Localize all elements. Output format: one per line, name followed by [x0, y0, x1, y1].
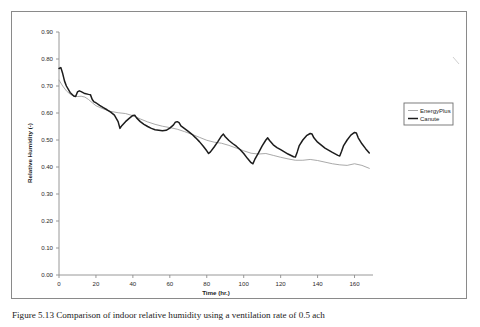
x-tick-label: 20: [93, 280, 100, 287]
relative-humidity-line-chart: 0.000.100.200.300.400.500.600.700.800.90…: [12, 12, 468, 300]
x-tick-label: 80: [203, 280, 210, 287]
y-tick-label: 0.10: [41, 244, 53, 251]
x-tick-label: 0: [57, 280, 61, 287]
y-axis-ticks: 0.000.100.200.300.400.500.600.700.800.90: [41, 28, 59, 278]
figure-frame: 0.000.100.200.300.400.500.600.700.800.90…: [11, 11, 467, 299]
plot-area-background: [59, 32, 373, 275]
x-tick-label: 40: [129, 280, 136, 287]
x-tick-label: 100: [239, 280, 250, 287]
scan-artifact-mark: [453, 57, 459, 64]
x-tick-label: 160: [349, 280, 360, 287]
chart-legend: EnergyPlus Canute: [404, 103, 453, 125]
x-tick-label: 120: [276, 280, 287, 287]
y-tick-label: 0.30: [41, 190, 53, 197]
y-tick-label: 0.50: [41, 136, 53, 143]
x-tick-label: 60: [166, 280, 173, 287]
figure-caption: Figure 5.13 Comparison of indoor relativ…: [12, 309, 468, 321]
legend-label-canute: Canute: [420, 116, 440, 122]
y-tick-label: 0.80: [41, 55, 53, 62]
x-tick-label: 140: [313, 280, 324, 287]
y-tick-label: 0.70: [41, 82, 53, 89]
y-tick-label: 0.40: [41, 163, 53, 170]
y-tick-label: 0.60: [41, 109, 53, 116]
y-tick-label: 0.00: [41, 271, 53, 278]
x-axis-ticks: 020406080100120140160: [57, 275, 360, 287]
x-axis-title: Time (hr.): [202, 289, 230, 296]
y-axis-title: Relative Humidity (-): [26, 123, 33, 183]
y-tick-label: 0.20: [41, 217, 53, 224]
legend-label-energyplus: EnergyPlus: [420, 108, 451, 114]
y-tick-label: 0.90: [41, 28, 53, 35]
